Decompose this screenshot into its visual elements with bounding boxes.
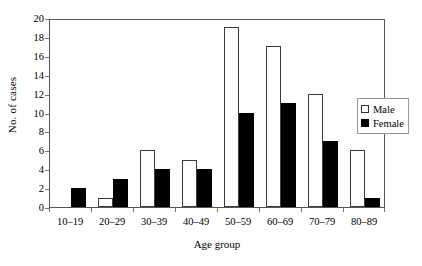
bar-male [266,46,281,207]
x-axis-tick-mark [133,208,134,212]
y-axis-title: No. of cases [0,0,24,210]
x-axis-tick-mark [259,208,260,212]
legend-item-male: Male [361,102,404,116]
y-axis-tick-label: 8 [22,127,44,137]
bar-group [50,20,92,207]
bar-female [197,169,212,207]
bar-male [140,150,155,207]
legend-label: Female [373,118,404,129]
x-axis-tick-labels: 10–1920–2930–3940–4950–5960–6970–7980–89 [49,215,385,231]
x-axis-title: Age group [49,238,385,250]
bar-male [98,198,113,207]
bar-group [302,20,344,207]
bar-group [176,20,218,207]
x-axis-tick-mark [343,208,344,212]
x-axis-tick-label: 80–89 [343,215,385,228]
y-axis-title-text: No. of cases [6,77,18,133]
bar-male [350,150,365,207]
x-axis-tick-label: 60–69 [259,215,301,228]
bar-male [308,94,323,207]
bar-chart-figure: No. of cases 02468101214161820 10–1920–2… [0,0,422,266]
y-axis-tick-label: 12 [22,90,44,100]
open-square-icon [361,105,369,113]
x-axis-tick-mark [49,208,50,212]
x-axis-tick-mark [91,208,92,212]
x-axis-tick-label: 10–19 [49,215,91,228]
y-axis-tick-label: 0 [22,203,44,213]
y-axis-tick-label: 2 [22,184,44,194]
x-axis-tick-label: 70–79 [301,215,343,228]
bar-group [92,20,134,207]
x-axis-tick-label: 20–29 [91,215,133,228]
chart-legend: MaleFemale [357,98,409,134]
y-axis-tick-labels: 02468101214161820 [22,19,44,208]
bar-female [281,103,296,207]
y-axis-tick-label: 18 [22,33,44,43]
x-axis-tick-label: 40–49 [175,215,217,228]
x-axis-tick-mark [175,208,176,212]
y-axis-tick-label: 16 [22,52,44,62]
x-axis-tick-label: 50–59 [217,215,259,228]
bar-female [323,141,338,207]
x-axis-tick-label: 30–39 [133,215,175,228]
bars-layer [50,20,384,207]
bar-female [71,188,86,207]
bar-female [113,179,128,207]
legend-item-female: Female [361,116,404,130]
legend-label: Male [373,104,395,115]
y-axis-tick-label: 6 [22,146,44,156]
x-axis-tick-marks [49,208,385,213]
bar-group [218,20,260,207]
plot-area [49,19,385,208]
filled-square-icon [361,119,369,127]
bar-female [155,169,170,207]
bar-female [239,113,254,208]
bar-female [365,198,380,207]
y-axis-tick-label: 4 [22,165,44,175]
x-axis-tick-mark [384,208,385,212]
y-axis-tick-label: 14 [22,71,44,81]
bar-group [260,20,302,207]
bar-male [224,27,239,207]
bar-group [134,20,176,207]
x-axis-tick-mark [217,208,218,212]
bar-male [182,160,197,207]
y-axis-tick-label: 10 [22,109,44,119]
x-axis-tick-mark [301,208,302,212]
y-axis-tick-label: 20 [22,14,44,24]
